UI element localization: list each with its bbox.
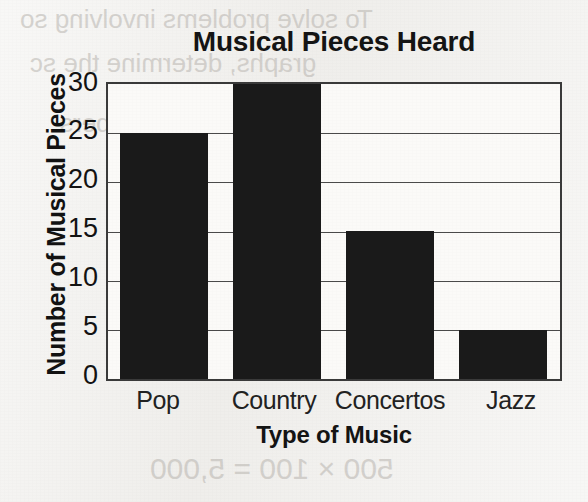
bar-jazz bbox=[459, 330, 547, 379]
x-tick-label-concertos: Concertos bbox=[325, 386, 455, 415]
x-tick-label-country: Country bbox=[212, 386, 336, 415]
y-tick-label: 10 bbox=[46, 264, 98, 291]
y-tick-label: 20 bbox=[46, 166, 98, 193]
y-tick-label: 0 bbox=[46, 362, 98, 389]
y-tick-label: 30 bbox=[46, 69, 98, 96]
plot-area bbox=[106, 82, 562, 381]
x-axis-title: Type of Music bbox=[106, 421, 562, 449]
y-axis-tick-labels: 30 25 20 15 10 5 0 bbox=[38, 0, 98, 502]
y-tick-label: 15 bbox=[46, 215, 98, 242]
y-tick-label: 5 bbox=[46, 313, 98, 340]
bar-country bbox=[233, 84, 321, 379]
chart-title: Musical Pieces Heard bbox=[106, 26, 562, 58]
bar-concertos bbox=[346, 231, 434, 379]
bar-pop bbox=[120, 133, 208, 379]
x-tick-label-pop: Pop bbox=[96, 386, 220, 415]
x-tick-label-jazz: Jazz bbox=[452, 386, 570, 415]
bar-chart-figure: Musical Pieces Heard Number of Musical P… bbox=[0, 0, 588, 502]
y-tick-label: 25 bbox=[46, 117, 98, 144]
